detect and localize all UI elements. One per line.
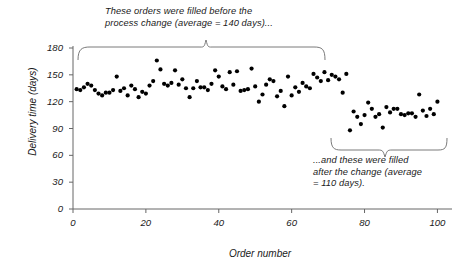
data-point <box>384 105 388 109</box>
data-point <box>370 107 374 111</box>
data-point <box>392 107 396 111</box>
x-tick-marks <box>73 209 437 213</box>
y-tick-label: 180 <box>33 42 63 53</box>
data-point <box>253 84 257 88</box>
y-tick-label: 60 <box>33 149 63 160</box>
data-point <box>348 128 352 132</box>
data-point <box>264 83 268 87</box>
data-point <box>373 115 377 119</box>
data-point <box>158 67 162 71</box>
data-point <box>217 75 221 79</box>
data-point <box>151 79 155 83</box>
data-point <box>126 93 130 97</box>
data-point <box>355 115 359 119</box>
data-point <box>366 100 370 104</box>
data-point <box>191 86 195 90</box>
data-point <box>435 100 439 104</box>
annotation-after-change: ...and these were filled after the chang… <box>313 155 463 190</box>
data-point <box>260 92 264 96</box>
data-point <box>268 77 272 81</box>
y-tick-label: 150 <box>33 69 63 80</box>
data-point <box>246 87 250 91</box>
data-point <box>228 70 232 74</box>
scatter-chart-figure: Delivery time (days) Order number These … <box>0 0 476 272</box>
data-point <box>166 83 170 87</box>
data-point <box>308 86 312 90</box>
data-point <box>115 75 119 79</box>
data-point <box>319 79 323 83</box>
data-point <box>304 84 308 88</box>
x-tick-label: 20 <box>131 217 161 228</box>
data-point <box>107 91 111 95</box>
data-point <box>180 77 184 81</box>
data-point <box>129 83 133 87</box>
data-point <box>297 90 301 94</box>
y-tick-marks <box>69 48 73 209</box>
annotation-braces <box>78 40 447 157</box>
data-point <box>293 85 297 89</box>
x-axis-label: Order number <box>180 248 340 259</box>
data-point <box>300 81 304 85</box>
data-point <box>381 126 385 130</box>
data-point <box>417 92 421 96</box>
data-point <box>173 68 177 72</box>
data-point <box>177 83 181 87</box>
data-point <box>195 79 199 83</box>
data-point <box>82 85 86 89</box>
data-point <box>413 115 417 119</box>
data-point <box>235 69 239 73</box>
data-point <box>428 107 432 111</box>
y-tick-label: 120 <box>33 96 63 107</box>
y-axis-label: Delivery time (days) <box>27 42 38 182</box>
data-point <box>78 88 82 92</box>
data-point <box>279 89 283 93</box>
data-point <box>424 114 428 118</box>
y-tick-label: 0 <box>33 203 63 214</box>
data-point <box>282 104 286 108</box>
data-point <box>111 88 115 92</box>
data-point <box>290 93 294 97</box>
data-point <box>239 89 243 93</box>
data-point <box>362 113 366 117</box>
data-point <box>271 79 275 83</box>
data-point <box>206 88 210 92</box>
data-points-group <box>75 58 440 132</box>
y-tick-label: 90 <box>33 123 63 134</box>
brace-top-icon <box>78 40 325 60</box>
x-tick-label: 60 <box>277 217 307 228</box>
data-point <box>286 75 290 79</box>
data-point <box>249 66 253 70</box>
data-point <box>410 111 414 115</box>
data-point <box>377 112 381 116</box>
data-point <box>388 110 392 114</box>
data-point <box>162 82 166 86</box>
data-point <box>188 95 192 99</box>
data-point <box>75 87 79 91</box>
data-point <box>399 112 403 116</box>
data-point <box>337 77 341 81</box>
y-tick-label: 30 <box>33 176 63 187</box>
data-point <box>242 88 246 92</box>
data-point <box>326 78 330 82</box>
data-point <box>118 89 122 93</box>
data-point <box>275 94 279 98</box>
data-point <box>330 73 334 77</box>
x-tick-label: 40 <box>204 217 234 228</box>
data-point <box>147 83 151 87</box>
data-point <box>257 100 261 104</box>
data-point <box>224 87 228 91</box>
data-point <box>137 95 141 99</box>
data-point <box>96 92 100 96</box>
data-point <box>344 72 348 76</box>
data-point <box>231 83 235 87</box>
data-point <box>333 75 337 79</box>
data-point <box>213 68 217 72</box>
data-point <box>406 111 410 115</box>
data-point <box>100 93 104 97</box>
data-point <box>220 84 224 88</box>
data-point <box>403 113 407 117</box>
data-point <box>169 81 173 85</box>
data-point <box>184 86 188 90</box>
plot-canvas <box>0 0 476 272</box>
data-point <box>209 82 213 86</box>
